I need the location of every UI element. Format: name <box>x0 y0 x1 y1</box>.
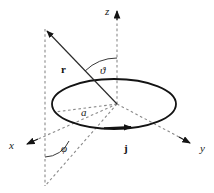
vector-label-r: r <box>61 63 66 75</box>
axis-label-y: y <box>199 142 205 154</box>
axis-arrow-y <box>179 137 190 143</box>
current-direction-arrow <box>104 127 131 128</box>
angle-label-phi: φ <box>61 142 67 154</box>
figure-canvas: z x y ϑ φ a r j <box>0 0 214 193</box>
vector-label-j: j <box>123 142 128 154</box>
axis-label-z: z <box>104 5 110 17</box>
angle-label-theta: ϑ <box>100 64 106 76</box>
dipole-loop-diagram: z x y ϑ φ a r j <box>0 0 214 193</box>
axis-group <box>27 11 190 144</box>
axis-line-x <box>36 104 117 140</box>
axis-line-y <box>117 104 181 138</box>
axis-label-x: x <box>8 139 14 151</box>
axis-arrow-x <box>27 139 38 144</box>
radius-label-a: a <box>81 106 87 118</box>
current-loop <box>52 79 176 129</box>
